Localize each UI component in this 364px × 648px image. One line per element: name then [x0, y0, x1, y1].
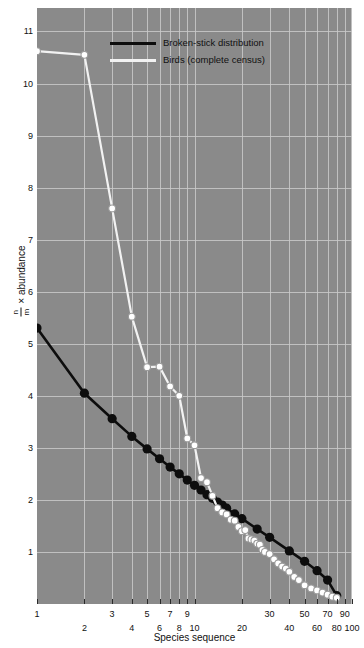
fraction-numerator: n [12, 308, 22, 316]
x-tick-mark [289, 599, 290, 604]
legend-item: Birds (complete census) [110, 55, 265, 65]
x-tick-mark [112, 599, 113, 604]
data-point [80, 389, 89, 398]
data-point [285, 546, 294, 555]
data-point [184, 435, 191, 442]
y-axis-times-symbol: × [16, 298, 27, 304]
y-tick-label: 4 [3, 392, 33, 401]
series-birds [37, 48, 340, 601]
y-tick-label: 2 [3, 496, 33, 505]
x-tick-label: 7 [168, 610, 173, 619]
x-tick-mark [270, 599, 271, 604]
y-axis-fraction: n m [12, 307, 31, 318]
legend-swatch [110, 59, 156, 62]
data-point [253, 524, 262, 533]
data-point [81, 51, 88, 58]
series-broken-stick [37, 324, 341, 601]
x-tick-label: 90 [340, 610, 350, 619]
x-tick-mark [328, 599, 329, 604]
data-point [175, 469, 184, 478]
x-tick-label: 3 [110, 610, 115, 619]
data-point [312, 566, 321, 575]
fraction-denominator: m [22, 307, 31, 318]
data-point [237, 514, 246, 523]
plot-area [37, 8, 352, 604]
y-tick-label: 11 [3, 27, 33, 36]
data-point [191, 442, 198, 449]
x-axis-title: Species sequence [37, 632, 352, 643]
data-point [156, 363, 163, 370]
chart-figure: 1234567891011 12345678910203040506070809… [0, 0, 364, 648]
data-point [166, 463, 175, 472]
data-point [242, 527, 249, 534]
data-point [204, 479, 211, 486]
x-tick-mark [337, 599, 338, 604]
legend-swatch [110, 42, 156, 45]
data-point [155, 454, 164, 463]
x-tick-mark [179, 599, 180, 604]
data-point [300, 557, 309, 566]
data-point [128, 313, 135, 320]
data-point [142, 444, 151, 453]
y-tick-label: 3 [3, 444, 33, 453]
data-point [295, 577, 302, 584]
x-tick-mark [147, 599, 148, 604]
x-tick-mark [352, 599, 353, 604]
data-point [109, 205, 116, 212]
x-tick-label: 70 [323, 610, 333, 619]
x-tick-mark [132, 599, 133, 604]
data-point [231, 517, 238, 524]
y-tick-label: 8 [3, 184, 33, 193]
series-line [37, 51, 337, 598]
series-layer [37, 8, 352, 604]
legend-label: Broken-stick distribution [163, 38, 264, 48]
x-tick-mark [317, 599, 318, 604]
data-point [176, 392, 183, 399]
legend-item: Broken-stick distribution [110, 38, 265, 48]
x-tick-mark [305, 599, 306, 604]
data-point [323, 575, 332, 584]
x-tick-label: 50 [300, 610, 310, 619]
x-tick-mark [242, 599, 243, 604]
data-point [301, 582, 308, 589]
x-tick-mark [195, 599, 196, 604]
data-point [108, 414, 117, 423]
legend: Broken-stick distributionBirds (complete… [110, 38, 265, 65]
y-axis-title-text: abundance [16, 246, 27, 296]
y-tick-label: 10 [3, 80, 33, 89]
x-tick-label: 9 [185, 610, 190, 619]
x-tick-mark [37, 599, 38, 604]
series-line [37, 328, 337, 596]
legend-label: Birds (complete census) [163, 55, 265, 65]
data-point [167, 383, 174, 390]
data-point [198, 475, 205, 482]
x-tick-mark [170, 599, 171, 604]
x-tick-label: 1 [34, 610, 39, 619]
x-tick-mark [84, 599, 85, 604]
data-point [144, 364, 151, 371]
data-point [209, 492, 216, 499]
data-point [265, 533, 274, 542]
x-tick-label: 30 [265, 610, 275, 619]
x-tick-mark [187, 599, 188, 604]
x-tick-mark [345, 599, 346, 604]
x-tick-label: 5 [145, 610, 150, 619]
data-point [37, 48, 40, 55]
y-tick-label: 9 [3, 132, 33, 141]
data-point [127, 432, 136, 441]
x-tick-mark [160, 599, 161, 604]
y-tick-label: 1 [3, 548, 33, 557]
y-axis-title: n m × abundance [12, 217, 31, 347]
